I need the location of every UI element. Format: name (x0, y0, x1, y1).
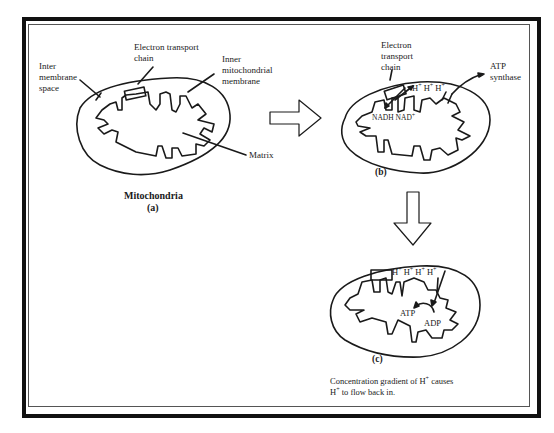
label-nadh-nad: NADH NAD+ (372, 112, 415, 123)
caption-a: (a) (147, 202, 159, 213)
down-arrow-icon (394, 192, 431, 245)
right-arrow-icon (270, 100, 321, 136)
pointer-matrix (183, 133, 246, 155)
label-adp: ADP (424, 318, 441, 329)
h-flow-arrowhead (431, 300, 436, 306)
label-etc-a: Electron transport chain (134, 42, 199, 64)
description-line-2: H+ to flow back in. (330, 387, 395, 398)
protons-b: H+ H+ H+ (412, 83, 445, 94)
outer-membrane-a (77, 78, 230, 175)
description-line-1: Concentration gradient of H+ causes (330, 376, 453, 387)
pointer-inner-membrane (188, 74, 214, 92)
mitochondrion-a (77, 67, 246, 175)
diagram-canvas (0, 0, 554, 433)
caption-b: (b) (375, 167, 387, 178)
caption-c: (c) (372, 354, 383, 365)
label-inner-mito-membrane: Inner mitochondrial membrane (222, 54, 273, 87)
label-nad: NAD (396, 113, 412, 122)
atp-synthase-c-stalk2 (437, 278, 438, 293)
label-atp: ATP (400, 308, 415, 319)
figure-title-mitochondria: Mitochondria (124, 190, 183, 201)
pointer-intermembrane (80, 80, 100, 97)
label-matrix: Matrix (249, 150, 274, 161)
atp-synthase-pointer (452, 74, 482, 94)
label-atp-synthase: ATP synthase (490, 61, 521, 83)
label-etc-b: Electron transport chain (381, 40, 413, 73)
pointer-etc-a (138, 67, 153, 84)
inner-membrane-a (96, 92, 214, 158)
protons-c: H+ H+ H+ H+ (392, 267, 437, 278)
label-inter-membrane-space: Inter membrane space (39, 61, 77, 94)
atp-synthase-arrowhead (478, 73, 484, 77)
inner-membrane-b (356, 96, 470, 160)
label-nadh: NADH (372, 113, 394, 122)
